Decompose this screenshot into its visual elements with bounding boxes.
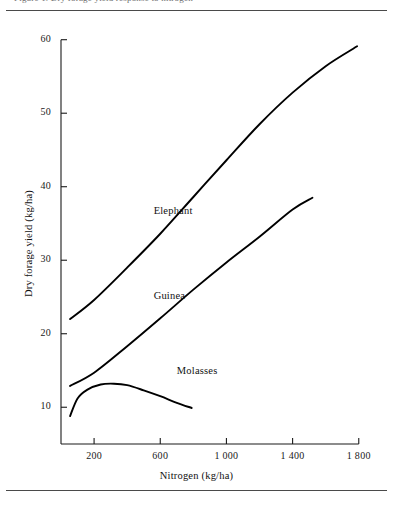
x-tick-label: 200 xyxy=(74,450,114,461)
series-label-elephant: Elephant xyxy=(154,205,193,216)
series-label-guinea: Guinea xyxy=(154,290,186,301)
series-line-molasses xyxy=(70,384,192,416)
y-tick-label: 60 xyxy=(29,33,51,44)
page-rule-bottom xyxy=(6,490,387,491)
chart-figure: 102030405060 2006001 0001 4001 800 Eleph… xyxy=(0,10,393,490)
series-label-molasses: Molasses xyxy=(177,365,218,376)
figure-page: Figure 1. Dry forage yield response to n… xyxy=(0,0,393,508)
chart-plot-area xyxy=(0,10,393,490)
y-tick-label: 10 xyxy=(29,400,51,411)
x-tick-label: 1 400 xyxy=(273,450,313,461)
x-tick-label: 1 000 xyxy=(206,450,246,461)
x-axis-title: Nitrogen (kg/ha) xyxy=(0,470,393,481)
y-axis-title: Dry forage yield (kg/ha) xyxy=(23,164,34,324)
y-tick-label: 50 xyxy=(29,106,51,117)
series-line-elephant xyxy=(70,46,357,319)
clipped-caption-fragment: Figure 1. Dry forage yield response to n… xyxy=(14,0,193,7)
chart-series xyxy=(70,46,357,416)
x-tick-label: 1 800 xyxy=(339,450,379,461)
y-tick-label: 20 xyxy=(29,327,51,338)
series-line-guinea xyxy=(70,198,312,386)
x-tick-label: 600 xyxy=(140,450,180,461)
